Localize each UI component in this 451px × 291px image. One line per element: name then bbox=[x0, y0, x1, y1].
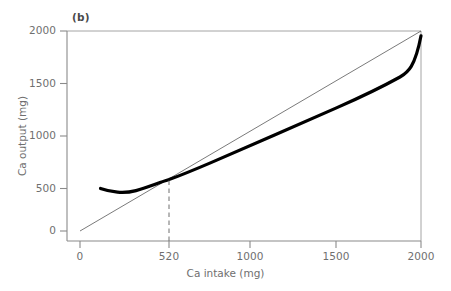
y-tick-label-2000: 2000 bbox=[6, 24, 56, 36]
x-tick-label-2000: 2000 bbox=[391, 250, 451, 262]
x-axis-title: Ca intake (mg) bbox=[0, 267, 451, 279]
chart-figure: (b) 2000 1500 1000 500 0 0 520 1000 1500… bbox=[0, 0, 451, 291]
y-tick-label-1000: 1000 bbox=[6, 129, 56, 141]
identity-line bbox=[80, 31, 421, 231]
y-tick-label-0: 0 bbox=[6, 224, 56, 236]
x-tick-label-1500: 1500 bbox=[306, 250, 366, 262]
x-tick-label-1000: 1000 bbox=[220, 250, 280, 262]
y-tick-label-1500: 1500 bbox=[6, 77, 56, 89]
y-tick-label-500: 500 bbox=[6, 182, 56, 194]
x-tick-label-0: 0 bbox=[50, 250, 110, 262]
y-axis-title: Ca output (mg) bbox=[16, 76, 28, 196]
x-tick-marks bbox=[80, 241, 421, 248]
y-tick-marks bbox=[60, 31, 67, 231]
x-tick-label-520: 520 bbox=[139, 250, 199, 262]
plot-canvas bbox=[0, 0, 451, 291]
panel-label: (b) bbox=[72, 11, 90, 23]
